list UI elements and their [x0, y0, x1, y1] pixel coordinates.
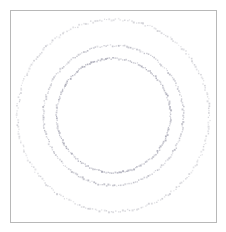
- figure-canvas: [0, 0, 226, 232]
- scatter-plot-area: [0, 0, 226, 232]
